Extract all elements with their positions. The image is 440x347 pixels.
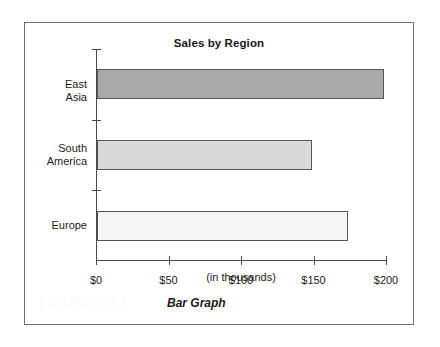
value-tick: [314, 256, 315, 265]
figure-caption: FIGURE 12.3. Bar Graph: [39, 295, 369, 317]
figure-caption-text: Bar Graph: [167, 296, 226, 310]
category-label-europe: Europe: [52, 219, 87, 232]
value-tick: [169, 256, 170, 265]
bar-south-america: [97, 140, 312, 170]
value-tick: [241, 256, 242, 265]
value-axis-caption: (in thousands): [96, 271, 386, 283]
bar-east-asia: [97, 69, 384, 99]
figure-frame: Sales by Region East AsiaSouth AmericaEu…: [24, 22, 414, 325]
category-label-east-asia: East Asia: [65, 78, 87, 104]
bar-europe: [97, 211, 348, 241]
value-tick: [96, 256, 97, 265]
category-axis-top-tick: [92, 49, 101, 50]
chart-plot-area: East AsiaSouth AmericaEurope $0$50$100$1…: [96, 49, 386, 261]
category-tick: [92, 120, 101, 121]
category-label-south-america: South America: [47, 142, 87, 168]
chart-title: Sales by Region: [25, 37, 413, 49]
figure-number-label: FIGURE 12.3.: [39, 295, 132, 311]
category-tick: [92, 190, 101, 191]
value-tick: [386, 256, 387, 265]
